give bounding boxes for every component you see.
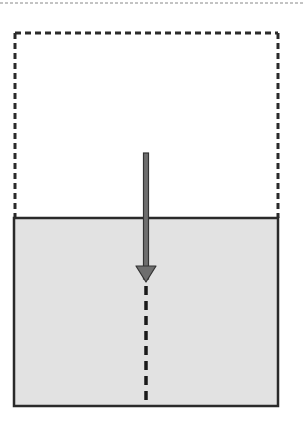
displacement-diagram [0,0,305,421]
